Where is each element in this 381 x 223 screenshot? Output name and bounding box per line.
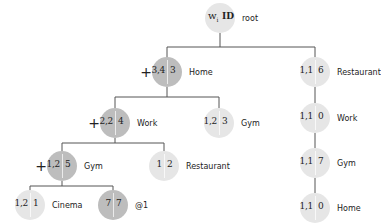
node-cinema[interactable]: 1,2 1 bbox=[15, 190, 45, 220]
root-node[interactable]: wi ID bbox=[205, 3, 235, 33]
node-label: Gym bbox=[241, 119, 260, 128]
node-label: Cinema bbox=[52, 201, 83, 210]
weight-label: 1 bbox=[157, 159, 162, 169]
weight-label: 2,2 bbox=[100, 116, 113, 126]
weight-label: 3,4 bbox=[152, 65, 165, 75]
node-restaurant-right[interactable]: 1,1 6 bbox=[300, 57, 330, 87]
weight-label: 1,1 bbox=[300, 201, 313, 211]
expand-icon[interactable]: + bbox=[140, 64, 152, 80]
edge-home-children bbox=[115, 87, 219, 108]
weight-label: 1,1 bbox=[300, 65, 313, 75]
id-label: 7 bbox=[116, 198, 122, 208]
id-label: 2 bbox=[167, 159, 173, 169]
node-home-right[interactable]: 1,1 0 bbox=[300, 193, 330, 223]
node-label: Restaurant bbox=[186, 162, 230, 171]
node-gym[interactable]: 1,2 3 bbox=[204, 108, 234, 138]
edge-gym-children bbox=[30, 181, 113, 191]
weight-label: wi bbox=[208, 10, 218, 23]
node-label: Home bbox=[189, 68, 213, 77]
id-label: 6 bbox=[318, 65, 324, 75]
weight-label: 1,2 bbox=[15, 198, 28, 208]
node-label: Work bbox=[337, 114, 357, 123]
root-label: root bbox=[242, 14, 258, 23]
id-label: 0 bbox=[318, 201, 324, 211]
node-label: Restaurant bbox=[337, 68, 381, 77]
weight-label: 1,2 bbox=[204, 116, 217, 126]
id-label: 0 bbox=[318, 111, 324, 121]
id-label: 1 bbox=[33, 198, 39, 208]
node-label: Gym bbox=[84, 162, 103, 171]
node-restaurant[interactable]: 1 2 bbox=[149, 151, 179, 181]
edge-root-children bbox=[167, 33, 315, 58]
node-label: Home bbox=[337, 204, 361, 213]
node-work-right[interactable]: 1,1 0 bbox=[300, 103, 330, 133]
expand-icon[interactable]: + bbox=[35, 158, 47, 174]
node-label: Gym bbox=[337, 159, 356, 168]
id-label: 4 bbox=[118, 116, 124, 126]
weight-label: 1,2 bbox=[47, 159, 60, 169]
node-at1[interactable]: 7 7 bbox=[98, 190, 128, 220]
id-label: ID bbox=[222, 11, 234, 21]
node-label: @1 bbox=[135, 201, 148, 210]
node-work[interactable]: 2,2 4 bbox=[100, 108, 130, 138]
id-label: 7 bbox=[318, 156, 324, 166]
weight-label: 1,1 bbox=[300, 111, 313, 121]
node-gym-l3[interactable]: 1,2 5 bbox=[47, 151, 77, 181]
weight-label: 7 bbox=[106, 198, 111, 208]
id-label: 5 bbox=[65, 159, 71, 169]
id-label: 3 bbox=[170, 65, 176, 75]
node-gym-right[interactable]: 1,1 7 bbox=[300, 148, 330, 178]
expand-icon[interactable]: + bbox=[88, 115, 100, 131]
id-label: 3 bbox=[222, 116, 228, 126]
node-label: Work bbox=[137, 119, 157, 128]
node-home[interactable]: 3,4 3 bbox=[152, 57, 182, 87]
edge-work-children bbox=[62, 138, 164, 151]
weight-label: 1,1 bbox=[300, 156, 313, 166]
